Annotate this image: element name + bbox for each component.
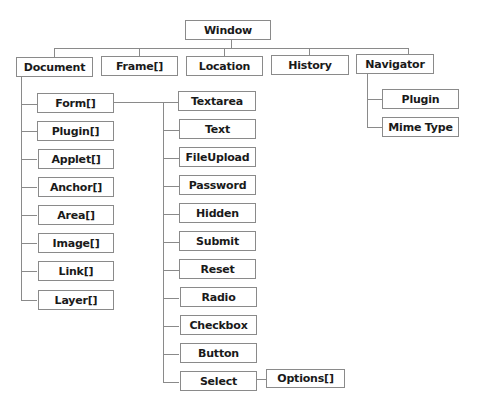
node-fileupload: FileUpload — [179, 147, 256, 167]
node-area: Area[] — [38, 205, 114, 225]
node-navigator-plugin: Plugin — [382, 89, 459, 109]
connector — [54, 48, 408, 49]
connector — [163, 326, 179, 327]
connector — [163, 382, 179, 383]
connector — [163, 298, 179, 299]
node-reset: Reset — [179, 259, 256, 279]
connector — [54, 48, 55, 57]
connector — [163, 130, 179, 131]
connector — [367, 99, 383, 100]
connector — [114, 102, 178, 103]
node-password: Password — [179, 175, 256, 195]
node-window: Window — [185, 20, 271, 40]
node-navigator: Navigator — [356, 54, 434, 74]
node-mime-type: Mime Type — [382, 117, 459, 137]
connector — [163, 186, 179, 187]
node-layer: Layer[] — [38, 290, 114, 310]
node-button: Button — [180, 343, 257, 363]
connector — [367, 74, 368, 128]
connector — [21, 131, 37, 132]
node-document: Document — [16, 57, 93, 77]
node-select: Select — [180, 371, 257, 391]
connector — [21, 187, 37, 188]
connector — [21, 243, 37, 244]
node-image: Image[] — [38, 233, 114, 253]
node-checkbox: Checkbox — [180, 315, 257, 335]
object-hierarchy-diagram: Window Document Frame[] Location History… — [0, 0, 479, 408]
connector — [21, 215, 37, 216]
node-textarea: Textarea — [178, 91, 256, 111]
node-history: History — [271, 55, 349, 75]
connector — [163, 214, 179, 215]
node-plugin-array: Plugin[] — [37, 121, 114, 141]
connector — [21, 104, 37, 105]
node-location: Location — [186, 56, 263, 76]
connector — [21, 300, 37, 301]
node-options: Options[] — [266, 369, 345, 388]
connector — [21, 159, 37, 160]
node-form: Form[] — [37, 93, 114, 113]
node-submit: Submit — [179, 231, 256, 251]
node-anchor: Anchor[] — [38, 177, 114, 197]
node-radio: Radio — [180, 287, 257, 307]
node-applet: Applet[] — [38, 149, 114, 169]
connector — [367, 127, 383, 128]
connector — [21, 77, 22, 301]
connector — [21, 271, 37, 272]
connector — [163, 242, 179, 243]
node-frame: Frame[] — [101, 56, 178, 76]
connector — [257, 379, 266, 380]
connector — [231, 40, 232, 48]
connector — [163, 158, 179, 159]
connector — [163, 270, 179, 271]
node-hidden: Hidden — [179, 203, 256, 223]
node-link: Link[] — [38, 261, 114, 281]
connector — [163, 354, 179, 355]
node-text: Text — [179, 119, 256, 139]
